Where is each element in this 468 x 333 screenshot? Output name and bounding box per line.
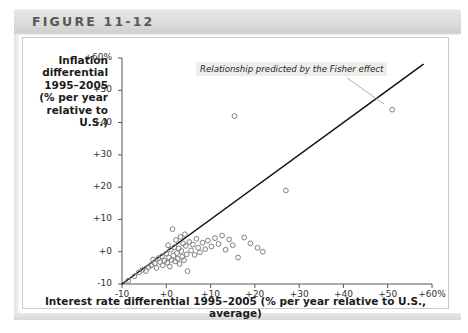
y-tick-label: +20 xyxy=(78,181,112,191)
figure-number-label: FIGURE 11-12 xyxy=(32,14,155,29)
y-tick-label: +50 xyxy=(78,84,112,94)
y-tick-label: +10 xyxy=(78,213,112,223)
x-tick-label: +10 xyxy=(191,289,231,299)
header-band-shadow xyxy=(14,32,461,35)
y-axis-title-line-5: relative to xyxy=(20,104,108,116)
x-tick-label: +60% xyxy=(412,289,452,299)
x-tick-label: +40 xyxy=(323,289,363,299)
x-tick-label: +0 xyxy=(146,289,186,299)
x-tick-label: +30 xyxy=(279,289,319,299)
y-tick-label: +30 xyxy=(78,149,112,159)
y-tick-label: +60% xyxy=(78,52,112,62)
fisher-effect-annotation: Relationship predicted by the Fisher eff… xyxy=(196,62,387,76)
y-tick-label: -10 xyxy=(78,278,112,288)
y-axis-title-line-2: differential xyxy=(20,66,108,78)
y-tick-label: +0 xyxy=(78,246,112,256)
x-tick-label: -10 xyxy=(102,289,142,299)
figure-header-band: FIGURE 11-12 xyxy=(14,9,461,33)
x-tick-label: +20 xyxy=(235,289,275,299)
y-tick-label: +40 xyxy=(78,117,112,127)
left-edge-strip xyxy=(14,9,19,320)
x-tick-label: +50 xyxy=(368,289,408,299)
figure-root: FIGURE 11-12 Inflation differential 1995… xyxy=(0,0,468,333)
